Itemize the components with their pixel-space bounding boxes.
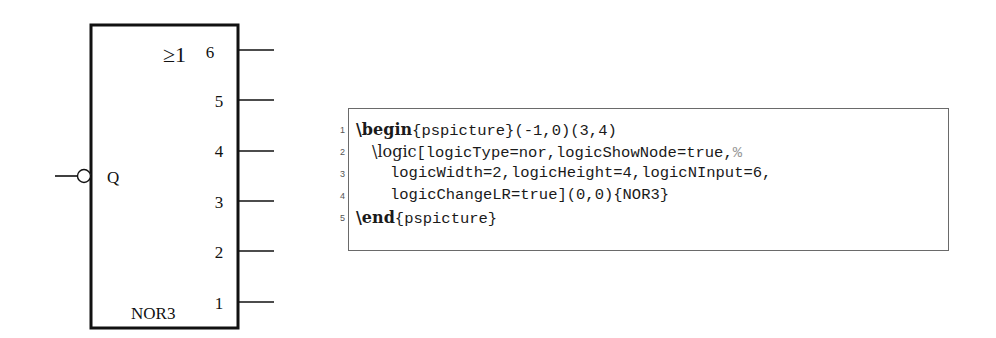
input-label-4: 4 [215, 142, 224, 161]
code-listing: 1 2 3 4 5 \begin{pspicture}(-1,0)(3,4) \… [333, 108, 953, 254]
negation-bubble-icon [78, 170, 91, 183]
code-line-3: logicWidth=2,logicHeight=4,logicNInput=6… [390, 164, 771, 182]
input-label-2: 2 [215, 243, 224, 262]
code-text: {pspicture}(-1,0)(3,4) [412, 122, 617, 140]
output-label: Q [107, 168, 119, 187]
input-label-6: 6 [206, 43, 215, 62]
keyword: \begin [356, 120, 412, 139]
code-line-1: \begin{pspicture}(-1,0)(3,4) [356, 120, 617, 140]
command: \logic [372, 142, 416, 161]
code-line-5: \end{pspicture} [356, 208, 497, 228]
input-label-1: 1 [215, 294, 224, 313]
line-number: 5 [333, 213, 345, 223]
code-line-2: \logic[logicType=nor,logicShowNode=true,… [372, 142, 742, 162]
gate-name: NOR3 [131, 304, 175, 323]
comment: % [733, 144, 742, 162]
input-label-5: 5 [215, 92, 224, 111]
line-number: 3 [333, 169, 345, 179]
line-number: 4 [333, 191, 345, 201]
line-number: 1 [333, 125, 345, 135]
input-label-3: 3 [215, 193, 224, 212]
code-box: \begin{pspicture}(-1,0)(3,4) \logic[logi… [348, 108, 949, 251]
line-number: 2 [333, 147, 345, 157]
nor-gate-diagram: ≥1 6 5 4 3 2 1 Q NOR3 [0, 0, 300, 338]
gate-symbol: ≥1 [163, 42, 186, 67]
nor-gate-svg: ≥1 6 5 4 3 2 1 Q NOR3 [0, 0, 300, 338]
code-text: {pspicture} [395, 210, 497, 228]
code-text: logicWidth=2,logicHeight=4,logicNInput=6… [390, 164, 771, 182]
code-text: logicChangeLR=true](0,0){NOR3} [390, 186, 669, 204]
code-line-4: logicChangeLR=true](0,0){NOR3} [390, 186, 669, 204]
keyword: \end [356, 208, 395, 227]
code-text: [logicType=nor,logicShowNode=true, [416, 144, 732, 162]
